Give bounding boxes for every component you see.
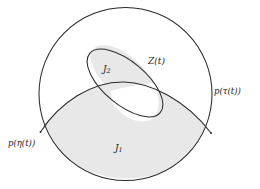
- figure-canvas: Z(t) p(τ(t)) p(η(t)) J1 J2: [0, 0, 260, 189]
- label-j2: J2: [103, 65, 111, 75]
- region-j2-shaded: [90, 45, 153, 91]
- label-j1: J1: [115, 144, 123, 154]
- label-j2-subscript: 2: [107, 67, 111, 75]
- label-p-eta-of-t: p(η(t)): [8, 139, 35, 148]
- label-j1-subscript: 1: [119, 146, 123, 154]
- point-p-eta-t: [40, 131, 42, 133]
- label-z-of-t: Z(t): [148, 57, 165, 66]
- label-p-tau-of-t: p(τ(t)): [214, 87, 241, 96]
- point-p-tau-t: [210, 132, 212, 134]
